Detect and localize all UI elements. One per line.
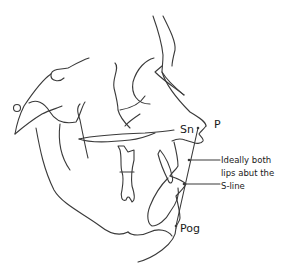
cephalometric-diagram: Sn P Pog Ideally both lips abut the S-li…: [0, 0, 285, 270]
nasal-bone-lines: [155, 66, 184, 95]
annotation-line-2: lips abut the: [221, 168, 274, 178]
soft-tissue-lips-chin: [138, 142, 186, 262]
annotation-line-1: Ideally both: [221, 155, 271, 165]
label-pogonion: Pog: [180, 222, 200, 235]
incisor-teeth: [148, 150, 179, 226]
orbit-outline: [120, 58, 154, 110]
annotation-line-3: S-line: [221, 181, 245, 191]
cranial-base-outline: [14, 58, 90, 134]
annotation-pointers: [175, 127, 220, 228]
s-line: [176, 128, 198, 226]
pterygoid-outline: [114, 63, 140, 128]
label-pronasale: P: [214, 118, 221, 131]
molar-tooth: [118, 146, 134, 202]
label-subnasale: Sn: [180, 123, 194, 136]
palatal-plane: [79, 130, 174, 142]
mandible-outline: [36, 104, 172, 236]
